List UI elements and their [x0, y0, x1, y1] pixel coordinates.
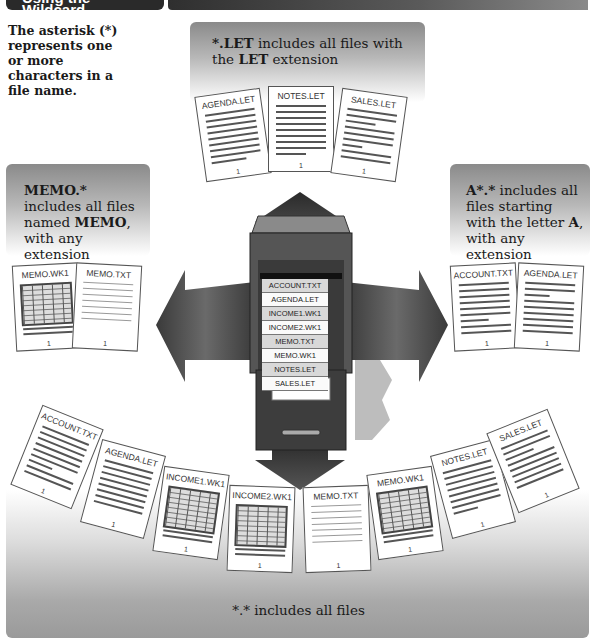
document-agenda-let-right: AGENDA.LET 1	[514, 262, 584, 351]
cabinet-file: NOTES.LET	[262, 363, 328, 377]
doc-title: MEMO.TXT	[304, 490, 368, 502]
doc-page: 1	[269, 162, 333, 169]
doc-title: MEMO.WK1	[13, 267, 77, 280]
cabinet-file: ACCOUNT.TXT	[262, 279, 328, 293]
cabinet-file: MEMO.TXT	[262, 335, 328, 349]
document-sales-let: SALES.LET 1	[330, 88, 407, 182]
document-income2-wk1-all: INCOME2.WK1 1	[227, 485, 296, 573]
arrow-left-icon	[156, 270, 255, 382]
bottom-caption: *.* includes all files	[0, 602, 597, 618]
doc-page: 1	[306, 561, 370, 570]
cabinet-file: AGENDA.LET	[262, 293, 328, 307]
doc-page: 1	[455, 338, 519, 348]
document-memo-txt-all: MEMO.TXT 1	[303, 485, 372, 573]
doc-title: AGENDA.LET	[519, 267, 583, 280]
cabinet-file: INCOME1.WK1	[262, 307, 328, 321]
doc-page: 1	[73, 338, 137, 348]
doc-page: 1	[228, 561, 292, 570]
drawer-handle	[282, 430, 320, 435]
cabinet-file: SALES.LET	[262, 377, 328, 391]
cabinet-file: INCOME2.WK1	[262, 321, 328, 335]
cabinet-file-list: ACCOUNT.TXT AGENDA.LET INCOME1.WK1 INCOM…	[262, 279, 328, 391]
doc-page: 1	[515, 338, 579, 348]
cabinet-file: MEMO.WK1	[262, 349, 328, 363]
document-memo-txt: MEMO.TXT 1	[72, 262, 142, 351]
document-notes-let: NOTES.LET 1	[268, 86, 334, 172]
doc-title: INCOME2.WK1	[230, 490, 294, 502]
doc-title: NOTES.LET	[269, 91, 333, 101]
doc-title: ACCOUNT.TXT	[451, 267, 515, 280]
document-agenda-let: AGENDA.LET 1	[194, 88, 271, 182]
cabinet-top	[252, 216, 350, 233]
doc-title: MEMO.TXT	[77, 267, 141, 280]
document-memo-wk1-all: MEMO.WK1 1	[366, 466, 443, 560]
document-income1-wk1-all: INCOME1.WK1 1	[152, 466, 229, 560]
document-account-txt: ACCOUNT.TXT 1	[450, 262, 520, 351]
